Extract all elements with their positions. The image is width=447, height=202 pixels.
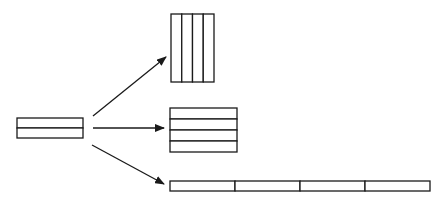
target-stacked-bars: [170, 108, 237, 152]
vertical-bar: [182, 14, 193, 82]
source-bar: [17, 128, 83, 138]
strip-segment: [235, 181, 300, 191]
source-block: [17, 118, 83, 138]
source-bar: [17, 118, 83, 128]
arrow-to-vertical-icon: [93, 57, 166, 116]
stacked-bar: [170, 119, 237, 130]
target-vertical-bars: [171, 14, 214, 82]
vertical-bar: [171, 14, 182, 82]
stacked-bar: [170, 130, 237, 141]
arrows: [92, 57, 166, 184]
vertical-bar: [203, 14, 214, 82]
strip-segment: [365, 181, 430, 191]
stacked-bar: [170, 108, 237, 119]
target-end-to-end-strip: [170, 181, 430, 191]
strip-segment: [170, 181, 235, 191]
arrow-to-strip-icon: [92, 145, 164, 184]
target-blocks: [170, 14, 430, 191]
vertical-bar: [193, 14, 204, 82]
strip-segment: [300, 181, 365, 191]
rearrangement-diagram: [0, 0, 447, 202]
stacked-bar: [170, 141, 237, 152]
